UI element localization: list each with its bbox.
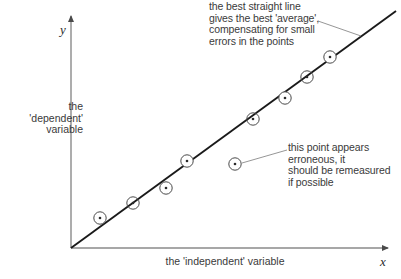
y-axis-caption: the 'dependent' variable (8, 101, 83, 136)
data-point (324, 51, 336, 63)
data-point-group (94, 51, 336, 224)
x-axis-symbol: x (380, 254, 386, 270)
scatter-plot-figure: the best straight line gives the best 'a… (0, 0, 401, 279)
leader-line-erroneous-point (242, 150, 287, 163)
data-point-erroneous (229, 158, 241, 170)
data-point (160, 182, 172, 194)
y-axis-symbol: y (60, 22, 66, 38)
data-point (94, 212, 106, 224)
annotation-best-straight-line: the best straight line gives the best 'a… (209, 1, 334, 47)
x-axis-caption: the 'independent' variable (140, 256, 310, 268)
data-point (279, 92, 291, 104)
plot-canvas (0, 0, 401, 279)
data-point (127, 197, 139, 209)
data-point (181, 155, 193, 167)
annotation-erroneous-point: this point appears erroneous, it should … (288, 142, 400, 188)
data-point (301, 71, 313, 83)
